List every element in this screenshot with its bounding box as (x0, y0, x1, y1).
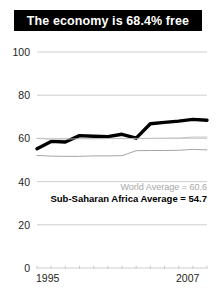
annotation-ssa-average: Sub-Saharan Africa Average = 54.7 (0, 193, 207, 205)
data-series-group (37, 119, 207, 156)
plot-area: 020406080100 1995 2007 (0, 0, 216, 302)
y-axis-tick-label: 80 (0, 89, 30, 101)
chart-annotations: World Average = 60.6 Sub-Saharan Africa … (0, 182, 207, 205)
annotation-world-average: World Average = 60.6 (0, 182, 207, 193)
y-axis-tick-label: 0 (0, 262, 30, 274)
x-axis-label-end: 2007 (176, 272, 199, 284)
chart-svg (0, 0, 216, 302)
y-axis-tick-label: 100 (0, 46, 30, 58)
data-line-sub-saharan-africa-average (37, 149, 207, 156)
chart-container: The economy is 68.4% free 020406080100 1… (0, 0, 216, 302)
x-axis-ticks (37, 266, 207, 270)
y-axis-tick-label: 20 (0, 219, 30, 231)
data-line-country (37, 119, 207, 148)
x-axis-label-start: 1995 (36, 272, 59, 284)
y-axis-tick-label: 60 (0, 132, 30, 144)
